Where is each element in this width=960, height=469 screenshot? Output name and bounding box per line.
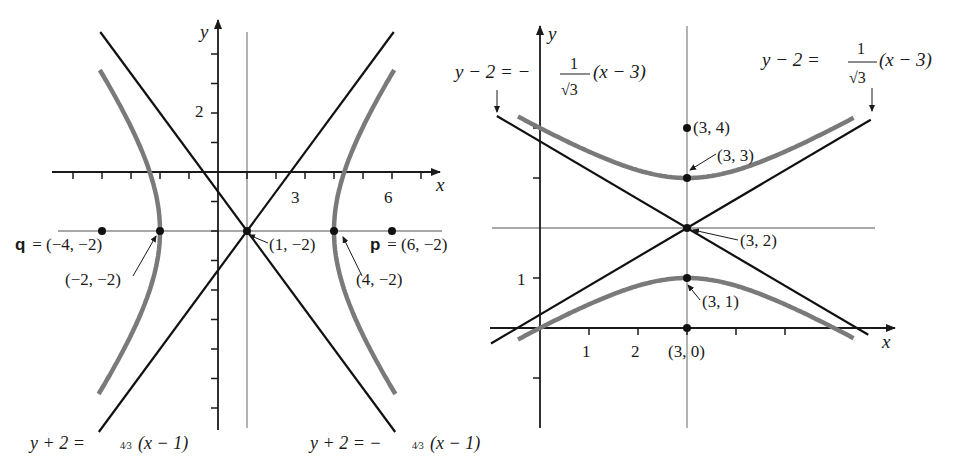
left-x-axis-label: x [435, 174, 445, 195]
point-label-center-left: (1, −2) [269, 235, 315, 254]
point-marker-1 [156, 227, 164, 235]
left-y-axis-label: y [198, 21, 209, 42]
asymptote-line-positive [491, 120, 871, 344]
point-label-vertex-top: (3, 3) [717, 146, 754, 165]
equation-numerator: 1 [857, 40, 865, 57]
equation-numerator: 1 [570, 55, 578, 72]
point-label-vertex-bottom: (3, 1) [702, 292, 739, 311]
right-axes [490, 26, 895, 428]
asymptote-equation-left-positive: y + 2 = 4⁄3 (x − 1) [28, 433, 188, 454]
right-x-tick-label-2: 2 [631, 342, 640, 361]
point-marker-0 [98, 227, 106, 235]
hyperbola-branch-left [99, 70, 160, 394]
point-label-focus-bottom: (3, 0) [668, 342, 705, 361]
right-x-tick-label-1: 1 [582, 342, 591, 361]
left-x-tick-label-6: 6 [384, 188, 393, 207]
point-label-center-right: (3, 2) [740, 231, 777, 250]
leader-arrow-vertex-right [343, 237, 362, 276]
leader-arrow-vertex-bottom [688, 285, 700, 300]
hyperbola-figures: y x 3 6 2 q = (−4, −2) (−2, −2) (1, −2) … [0, 0, 960, 469]
asymptote-equation-right-positive: y − 2 = 1 √3 (x − 3) [760, 40, 932, 86]
equation-tail: (x − 1) [138, 433, 188, 454]
equation-main: y − 2 = [760, 49, 825, 70]
point-label-q: q = (−4, −2) [15, 235, 102, 254]
point-q-name: q [15, 235, 25, 254]
equation-main: y + 2 = [28, 433, 89, 453]
point-marker-3 [330, 227, 338, 235]
right-y-tick-label-1: 1 [517, 270, 526, 289]
equation-fraction: 4⁄3 [412, 440, 424, 451]
equation-main: y − 2 = − [453, 61, 530, 82]
hyperbola-branch-right [334, 70, 395, 394]
left-x-tick-label-3: 3 [291, 188, 300, 207]
equation-fraction: 4⁄3 [120, 440, 132, 451]
diagram-canvas: y x 3 6 2 q = (−4, −2) (−2, −2) (1, −2) … [0, 0, 960, 469]
point-marker-2 [683, 224, 691, 232]
point-marker-3 [683, 274, 691, 282]
point-marker-4 [388, 227, 396, 235]
asymptote-equation-right-negative: y − 2 = − 1 √3 (x − 3) [453, 55, 646, 98]
point-label-vertex-right: (4, −2) [356, 270, 402, 289]
right-x-axis-label: x [881, 331, 891, 352]
asymptote-line-negative [497, 116, 868, 335]
point-q-coords: = (−4, −2) [28, 235, 102, 254]
point-label-focus-top: (3, 4) [693, 118, 730, 137]
equation-tail: (x − 1) [430, 433, 480, 454]
equation-denominator: √3 [561, 81, 578, 98]
point-label-p: p = (6, −2) [370, 235, 448, 254]
equation-tail: (x − 3) [593, 61, 646, 83]
equation-main: y + 2 = − [308, 433, 381, 453]
point-marker-2 [243, 227, 251, 235]
point-p-name: p [370, 235, 380, 254]
leader-arrow-vertex-left [133, 236, 156, 276]
equation-denominator: √3 [849, 69, 866, 86]
leader-arrow-vertex-top [690, 154, 716, 170]
left-figure: y x 3 6 2 q = (−4, −2) (−2, −2) (1, −2) … [15, 20, 480, 454]
asymptote-equation-left-negative: y + 2 = − 4⁄3 (x − 1) [308, 433, 480, 454]
point-marker-4 [683, 324, 691, 332]
equation-tail: (x − 3) [879, 49, 932, 71]
left-y-tick-label-2: 2 [195, 102, 204, 121]
right-figure: y x 1 2 1 (3, 4) (3, 3) (3, 2) (3, 1) (3… [453, 23, 932, 428]
left-axes [52, 20, 442, 430]
point-p-coords: = (6, −2) [383, 235, 448, 254]
point-marker-0 [683, 124, 691, 132]
point-marker-1 [683, 174, 691, 182]
right-y-axis-label: y [546, 23, 557, 44]
point-label-vertex-left: (−2, −2) [65, 270, 121, 289]
